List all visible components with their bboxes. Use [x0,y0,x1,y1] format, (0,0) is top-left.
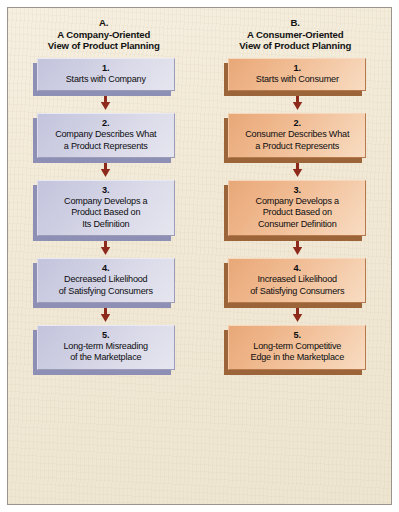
step-b-5: 5. Long-term Competitive Edge in the Mar… [224,325,366,370]
step-a-1: 1. Starts with Company [33,58,175,91]
step-b-2-label: Consumer Describes What a Product Repres… [232,129,362,152]
step-b-5-label: Long-term Competitive Edge in the Market… [232,341,362,364]
step-b-3-number: 3. [232,185,362,196]
step-b-1: 1. Starts with Consumer [224,58,366,91]
step-a-2-number: 2. [41,118,171,129]
column-b-heading: B.A Consumer-Oriented View of Product Pl… [239,17,351,52]
step-b-3-box: 3. Company Develops a Product Based on C… [228,180,366,236]
flowchart-columns: A.A Company-Oriented View of Product Pla… [8,8,391,504]
step-b-1-box: 1. Starts with Consumer [228,58,366,91]
step-b-5-box: 5. Long-term Competitive Edge in the Mar… [228,325,366,370]
column-a-title: A Company-Oriented View of Product Plann… [48,29,160,52]
flowchart-column-a: A.A Company-Oriented View of Product Pla… [8,17,200,504]
flowchart-figure: A.A Company-Oriented View of Product Pla… [7,7,392,505]
step-b-3-label: Company Develops a Product Based on Cons… [232,196,362,230]
step-b-4-label: Increased Likelihood of Satisfying Consu… [232,274,362,297]
step-a-3-number: 3. [41,185,171,196]
step-b-2-box: 2. Consumer Describes What a Product Rep… [228,113,366,158]
step-b-1-label: Starts with Consumer [232,74,362,85]
step-a-3-box: 3. Company Develops a Product Based on I… [37,180,175,236]
down-arrow-icon [99,161,112,177]
step-a-4-number: 4. [41,263,171,274]
step-b-2: 2. Consumer Describes What a Product Rep… [224,113,366,158]
column-a-heading: A.A Company-Oriented View of Product Pla… [48,17,160,52]
step-b-2-number: 2. [232,118,362,129]
down-arrow-icon [291,94,304,110]
step-a-4-label: Decreased Likelihood of Satisfying Consu… [41,274,171,297]
column-b-flow: 1. Starts with Consumer 2. Consumer Desc… [224,58,366,370]
step-a-1-box: 1. Starts with Company [37,58,175,91]
flowchart-column-b: B.A Consumer-Oriented View of Product Pl… [200,17,392,504]
step-b-3: 3. Company Develops a Product Based on C… [224,180,366,236]
step-b-1-number: 1. [232,63,362,74]
step-a-5-label: Long-term Misreading of the Marketplace [41,341,171,364]
column-a-letter: A. [99,17,108,28]
column-b-letter: B. [291,17,300,28]
step-a-5: 5. Long-term Misreading of the Marketpla… [33,325,175,370]
step-a-4: 4. Decreased Likelihood of Satisfying Co… [33,258,175,303]
down-arrow-icon [291,161,304,177]
step-a-1-number: 1. [41,63,171,74]
step-b-5-number: 5. [232,330,362,341]
down-arrow-icon [291,306,304,322]
step-a-3-label: Company Develops a Product Based on Its … [41,196,171,230]
step-b-4-number: 4. [232,263,362,274]
column-a-flow: 1. Starts with Company 2. Company Descri… [33,58,175,370]
step-a-5-box: 5. Long-term Misreading of the Marketpla… [37,325,175,370]
down-arrow-icon [99,306,112,322]
down-arrow-icon [291,239,304,255]
step-b-4: 4. Increased Likelihood of Satisfying Co… [224,258,366,303]
step-b-4-box: 4. Increased Likelihood of Satisfying Co… [228,258,366,303]
step-a-3: 3. Company Develops a Product Based on I… [33,180,175,236]
step-a-4-box: 4. Decreased Likelihood of Satisfying Co… [37,258,175,303]
step-a-5-number: 5. [41,330,171,341]
step-a-2-box: 2. Company Describes What a Product Repr… [37,113,175,158]
step-a-1-label: Starts with Company [41,74,171,85]
step-a-2-label: Company Describes What a Product Represe… [41,129,171,152]
down-arrow-icon [99,239,112,255]
step-a-2: 2. Company Describes What a Product Repr… [33,113,175,158]
column-b-title: A Consumer-Oriented View of Product Plan… [239,29,351,52]
down-arrow-icon [99,94,112,110]
